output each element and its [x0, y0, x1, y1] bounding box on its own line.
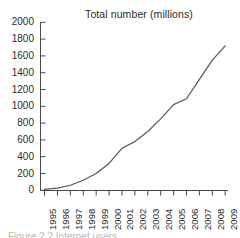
x-tick-label-1996: 1996 — [61, 196, 71, 230]
x-tick-label-2000: 2000 — [113, 196, 123, 230]
y-tick-label-2000: 2000 — [2, 17, 34, 27]
y-tick-label-1200: 1200 — [2, 85, 34, 95]
data-series-line — [45, 46, 226, 190]
figure-caption-partial: Figure 2.2 Internet users — [8, 231, 158, 238]
x-tick-label-2008: 2008 — [216, 196, 226, 230]
y-tick-label-1400: 1400 — [2, 68, 34, 78]
y-axis-ticks — [41, 22, 46, 190]
x-tick-label-1998: 1998 — [87, 196, 97, 230]
x-tick-label-1999: 1999 — [100, 196, 110, 230]
y-tick-label-0: 0 — [2, 185, 34, 195]
x-tick-label-2006: 2006 — [190, 196, 200, 230]
x-tick-label-2009: 2009 — [229, 196, 239, 230]
y-tick-label-400: 400 — [2, 152, 34, 162]
x-tick-label-2005: 2005 — [177, 196, 187, 230]
x-tick-label-1997: 1997 — [74, 196, 84, 230]
x-tick-label-1995: 1995 — [48, 196, 58, 230]
y-tick-label-1800: 1800 — [2, 34, 34, 44]
x-tick-label-2002: 2002 — [138, 196, 148, 230]
x-axis-ticks — [45, 191, 226, 196]
y-tick-label-1600: 1600 — [2, 51, 34, 61]
x-tick-label-2001: 2001 — [125, 196, 135, 230]
x-tick-label-2007: 2007 — [203, 196, 213, 230]
chart-figure: Total number (millions) — [0, 0, 240, 238]
y-tick-label-1000: 1000 — [2, 101, 34, 111]
y-tick-label-600: 600 — [2, 135, 34, 145]
x-tick-label-2004: 2004 — [164, 196, 174, 230]
x-tick-label-2003: 2003 — [151, 196, 161, 230]
y-tick-label-800: 800 — [2, 118, 34, 128]
y-tick-label-200: 200 — [2, 169, 34, 179]
